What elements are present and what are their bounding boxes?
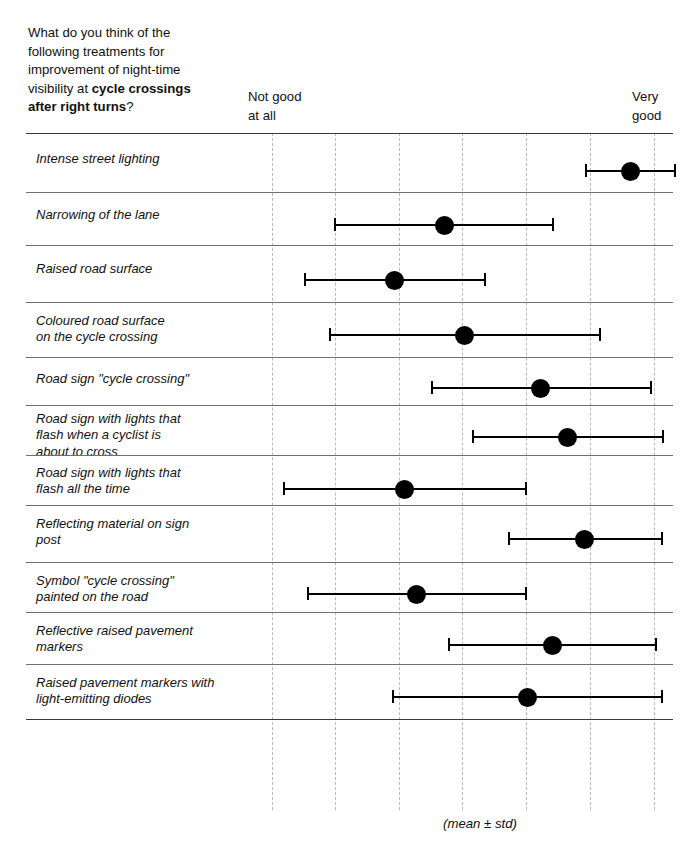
row-label-line: Road sign with lights that bbox=[36, 411, 181, 426]
mean-marker bbox=[455, 326, 474, 345]
row-label: Road sign with lights thatflash all the … bbox=[36, 465, 264, 498]
question-emphasis-2: after right turns bbox=[28, 99, 126, 114]
error-bar-cap-upper bbox=[552, 218, 554, 231]
error-bar-cap-lower bbox=[508, 532, 510, 545]
error-bar-cap-upper bbox=[525, 587, 527, 600]
row-separator-8 bbox=[26, 562, 673, 563]
row-label: Intense street lighting bbox=[36, 151, 264, 167]
scale-anchor-low: Not good at all bbox=[248, 88, 302, 125]
error-bar-cap-lower bbox=[307, 587, 309, 600]
error-bar-cap-upper bbox=[661, 690, 663, 703]
row-separator-4 bbox=[26, 357, 673, 358]
question-line-3: improvement of night-time bbox=[28, 62, 180, 77]
row-label-line: on the cycle crossing bbox=[36, 329, 157, 344]
row-separator-10 bbox=[26, 664, 673, 665]
row-separator-5 bbox=[26, 405, 673, 406]
row-label-line: Road sign with lights that bbox=[36, 465, 181, 480]
row-separator-0 bbox=[26, 133, 673, 134]
error-bar-cap-lower bbox=[334, 218, 336, 231]
mean-marker bbox=[435, 216, 454, 235]
error-bar-cap-upper bbox=[662, 430, 664, 443]
row-separator-7 bbox=[26, 505, 673, 506]
row-label-line: Raised pavement markers with bbox=[36, 675, 214, 690]
gridline-7 bbox=[654, 133, 655, 810]
error-bar-cap-lower bbox=[283, 482, 285, 495]
row-label-line: Road sign "cycle crossing" bbox=[36, 371, 189, 386]
row-label: Symbol "cycle crossing"painted on the ro… bbox=[36, 573, 264, 606]
chart-header: What do you think of the following treat… bbox=[0, 0, 694, 133]
scale-anchor-high-line-2: good bbox=[632, 108, 661, 123]
mean-marker bbox=[531, 379, 550, 398]
row-label-line: about to cross bbox=[36, 444, 118, 459]
row-separator-1 bbox=[26, 192, 673, 193]
row-separator-9 bbox=[26, 612, 673, 613]
gridline-6 bbox=[590, 133, 591, 810]
row-label-line: Reflective raised pavement bbox=[36, 623, 193, 638]
question-line-2: following treatments for bbox=[28, 44, 164, 59]
error-bar-cap-lower bbox=[304, 273, 306, 286]
row-label: Road sign with lights thatflash when a c… bbox=[36, 411, 264, 460]
row-label-line: Symbol "cycle crossing" bbox=[36, 573, 174, 588]
row-label-line: painted on the road bbox=[36, 589, 148, 604]
chart-page: What do you think of the following treat… bbox=[0, 0, 694, 848]
row-label: Road sign "cycle crossing" bbox=[36, 371, 264, 387]
gridline-1 bbox=[272, 133, 273, 810]
row-separator-2 bbox=[26, 245, 673, 246]
error-bar-cap-lower bbox=[431, 381, 433, 394]
row-label: Reflective raised pavementmarkers bbox=[36, 623, 264, 656]
row-separator-6 bbox=[26, 455, 673, 456]
question-line-5-suffix: ? bbox=[126, 99, 133, 114]
row-label-line: Reflecting material on sign bbox=[36, 516, 189, 531]
mean-marker bbox=[407, 585, 426, 604]
mean-marker bbox=[543, 636, 562, 655]
mean-marker bbox=[621, 162, 640, 181]
mean-marker bbox=[385, 271, 404, 290]
row-label-line: Raised road surface bbox=[36, 261, 152, 276]
question-line-1: What do you think of the bbox=[28, 25, 170, 40]
row-separator-3 bbox=[26, 302, 673, 303]
row-label: Narrowing of the lane bbox=[36, 207, 264, 223]
error-bar-cap-upper bbox=[599, 328, 601, 341]
row-label-line: Coloured road surface bbox=[36, 313, 165, 328]
error-bar-cap-upper bbox=[650, 381, 652, 394]
scale-anchor-high: Very good bbox=[632, 88, 661, 125]
scale-anchor-low-line-1: Not good bbox=[248, 89, 302, 104]
mean-marker bbox=[395, 480, 414, 499]
mean-marker bbox=[558, 428, 577, 447]
error-bar-cap-upper bbox=[484, 273, 486, 286]
error-bar-cap-upper bbox=[661, 532, 663, 545]
row-label-line: flash all the time bbox=[36, 481, 130, 496]
row-label-line: light-emitting diodes bbox=[36, 691, 152, 706]
error-bar-cap-lower bbox=[472, 430, 474, 443]
error-bar-cap-upper bbox=[655, 638, 657, 651]
scale-anchor-high-line-1: Very bbox=[632, 89, 658, 104]
chart-footnote: (mean ± std) bbox=[443, 816, 517, 831]
gridline-2 bbox=[335, 133, 336, 810]
plot-bottom-border bbox=[26, 719, 673, 720]
row-label-line: post bbox=[36, 532, 61, 547]
error-bar-cap-upper bbox=[674, 164, 676, 177]
errorbar-chart-plot: Intense street lightingNarrowing of the … bbox=[26, 133, 673, 810]
row-label-line: flash when a cyclist is bbox=[36, 427, 161, 442]
gridline-5 bbox=[526, 133, 527, 810]
row-label: Reflecting material on signpost bbox=[36, 516, 264, 549]
error-bar-cap-lower bbox=[329, 328, 331, 341]
error-bar-cap-upper bbox=[525, 482, 527, 495]
row-label: Coloured road surfaceon the cycle crossi… bbox=[36, 313, 264, 346]
error-bar-cap-lower bbox=[585, 164, 587, 177]
row-label-line: markers bbox=[36, 639, 83, 654]
gridline-4 bbox=[462, 133, 463, 810]
error-bar-cap-lower bbox=[392, 690, 394, 703]
row-label-line: Intense street lighting bbox=[36, 151, 160, 166]
row-label: Raised road surface bbox=[36, 261, 264, 277]
mean-marker bbox=[575, 530, 594, 549]
survey-question: What do you think of the following treat… bbox=[28, 24, 243, 117]
gridline-3 bbox=[399, 133, 400, 810]
row-label: Raised pavement markers withlight-emitti… bbox=[36, 675, 264, 708]
question-emphasis-1: cycle crossings bbox=[92, 81, 191, 96]
mean-marker bbox=[518, 688, 537, 707]
scale-anchor-low-line-2: at all bbox=[248, 108, 276, 123]
row-label-line: Narrowing of the lane bbox=[36, 207, 160, 222]
question-line-4-prefix: visibility at bbox=[28, 81, 92, 96]
error-bar-cap-lower bbox=[448, 638, 450, 651]
